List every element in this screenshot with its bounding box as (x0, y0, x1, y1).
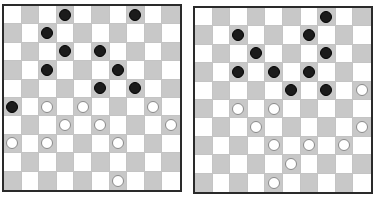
black-piece[interactable] (6, 101, 18, 113)
board-square[interactable] (57, 116, 75, 134)
board-square[interactable] (39, 98, 57, 116)
board-square[interactable] (301, 174, 319, 192)
board-square[interactable] (301, 45, 319, 63)
black-piece[interactable] (41, 64, 53, 76)
board-square[interactable] (57, 80, 75, 98)
board-square[interactable] (265, 118, 283, 136)
white-piece[interactable] (250, 121, 262, 133)
board-square[interactable] (336, 137, 354, 155)
board-square[interactable] (92, 98, 110, 116)
board-square[interactable] (195, 26, 213, 44)
board-square[interactable] (74, 6, 92, 24)
board-square[interactable] (353, 155, 371, 173)
board-square[interactable] (301, 63, 319, 81)
black-piece[interactable] (320, 11, 332, 23)
board-square[interactable] (353, 174, 371, 192)
board-square[interactable] (230, 174, 248, 192)
board-square[interactable] (39, 153, 57, 171)
board-square[interactable] (195, 118, 213, 136)
board-square[interactable] (74, 116, 92, 134)
board-square[interactable] (248, 45, 266, 63)
board-square[interactable] (248, 155, 266, 173)
board-square[interactable] (213, 45, 231, 63)
board-square[interactable] (57, 43, 75, 61)
board-square[interactable] (162, 98, 180, 116)
board-square[interactable] (195, 155, 213, 173)
white-piece[interactable] (338, 139, 350, 151)
board-square[interactable] (248, 137, 266, 155)
board-square[interactable] (92, 116, 110, 134)
board-square[interactable] (336, 118, 354, 136)
board-square[interactable] (92, 24, 110, 42)
board-square[interactable] (57, 172, 75, 190)
board-square[interactable] (336, 100, 354, 118)
white-piece[interactable] (41, 101, 53, 113)
board-square[interactable] (213, 155, 231, 173)
board-square[interactable] (22, 61, 40, 79)
white-piece[interactable] (268, 103, 280, 115)
board-square[interactable] (145, 172, 163, 190)
board-square[interactable] (248, 174, 266, 192)
board-square[interactable] (127, 172, 145, 190)
white-piece[interactable] (112, 137, 124, 149)
board-square[interactable] (318, 8, 336, 26)
board-square[interactable] (4, 43, 22, 61)
board-square[interactable] (145, 80, 163, 98)
board-square[interactable] (213, 137, 231, 155)
white-piece[interactable] (147, 101, 159, 113)
black-piece[interactable] (320, 47, 332, 59)
board-square[interactable] (353, 8, 371, 26)
board-square[interactable] (74, 153, 92, 171)
board-square[interactable] (283, 174, 301, 192)
board-square[interactable] (162, 61, 180, 79)
board-square[interactable] (4, 153, 22, 171)
board-square[interactable] (74, 172, 92, 190)
black-piece[interactable] (232, 29, 244, 41)
board-square[interactable] (213, 118, 231, 136)
board-square[interactable] (230, 137, 248, 155)
white-piece[interactable] (268, 139, 280, 151)
board-square[interactable] (265, 26, 283, 44)
board-square[interactable] (318, 174, 336, 192)
board-square[interactable] (353, 137, 371, 155)
black-piece[interactable] (59, 9, 71, 21)
board-square[interactable] (22, 116, 40, 134)
board-square[interactable] (265, 137, 283, 155)
board-square[interactable] (301, 26, 319, 44)
board-square[interactable] (110, 135, 128, 153)
white-piece[interactable] (303, 139, 315, 151)
board-square[interactable] (230, 26, 248, 44)
board-square[interactable] (301, 8, 319, 26)
white-piece[interactable] (6, 137, 18, 149)
board-square[interactable] (336, 82, 354, 100)
board-square[interactable] (301, 137, 319, 155)
board-square[interactable] (74, 80, 92, 98)
board-square[interactable] (162, 24, 180, 42)
board-square[interactable] (213, 8, 231, 26)
board-square[interactable] (318, 137, 336, 155)
board-square[interactable] (4, 24, 22, 42)
board-square[interactable] (22, 6, 40, 24)
board-square[interactable] (336, 45, 354, 63)
board-square[interactable] (127, 6, 145, 24)
board-square[interactable] (39, 172, 57, 190)
black-piece[interactable] (320, 84, 332, 96)
board-square[interactable] (162, 172, 180, 190)
board-square[interactable] (265, 45, 283, 63)
board-square[interactable] (301, 155, 319, 173)
board-square[interactable] (336, 26, 354, 44)
board-square[interactable] (110, 61, 128, 79)
board-square[interactable] (92, 172, 110, 190)
board-square[interactable] (301, 82, 319, 100)
white-piece[interactable] (285, 158, 297, 170)
board-square[interactable] (195, 63, 213, 81)
board-square[interactable] (74, 24, 92, 42)
board-square[interactable] (4, 80, 22, 98)
board-square[interactable] (195, 137, 213, 155)
board-square[interactable] (4, 61, 22, 79)
board-square[interactable] (248, 118, 266, 136)
board-square[interactable] (265, 82, 283, 100)
board-square[interactable] (248, 100, 266, 118)
board-square[interactable] (74, 98, 92, 116)
board-square[interactable] (127, 153, 145, 171)
